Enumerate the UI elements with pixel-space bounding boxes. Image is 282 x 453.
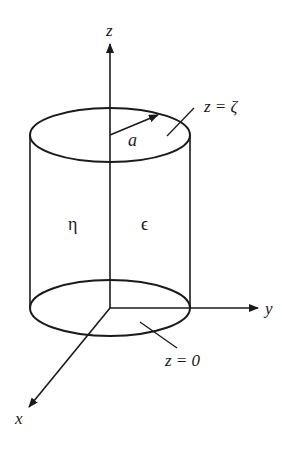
top-surface-label: z = ζ: [203, 97, 239, 116]
x-axis-label: x: [14, 409, 23, 428]
region-right-label: ϵ: [141, 214, 148, 234]
cylinder-diagram: z a z = ζ η ϵ y x z = 0: [0, 0, 282, 453]
region-left-label: η: [68, 214, 77, 234]
radius-label: a: [128, 130, 137, 150]
bottom-surface-label: z = 0: [164, 351, 201, 370]
z-axis-label: z: [105, 21, 113, 40]
y-axis-label: y: [263, 299, 273, 318]
